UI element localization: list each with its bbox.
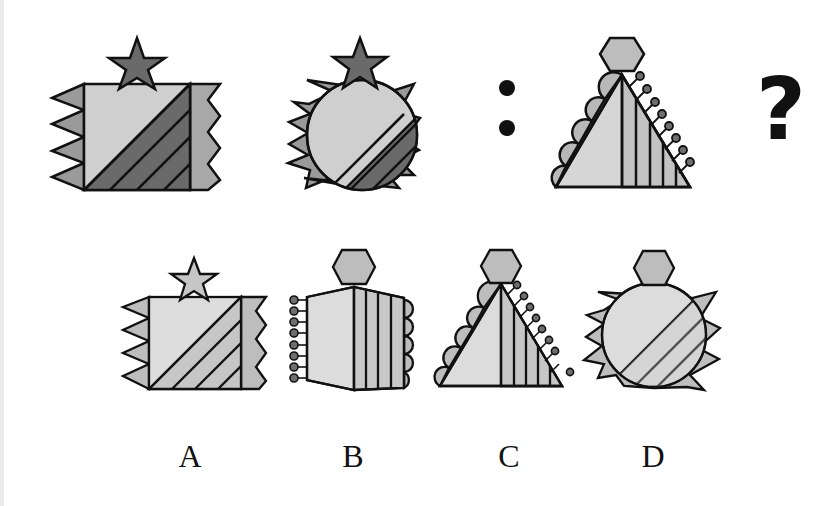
option-c-figure[interactable] bbox=[434, 250, 573, 386]
puzzle-figures bbox=[4, 0, 836, 506]
puzzle-canvas: ? A B C D bbox=[0, 0, 836, 506]
star-icon bbox=[171, 258, 217, 300]
hexagon-icon bbox=[333, 250, 375, 284]
sawtooth-left-icon bbox=[123, 297, 149, 389]
star-icon bbox=[109, 38, 165, 89]
top-figure-triangle-hexagon bbox=[552, 38, 694, 187]
hexagon-icon bbox=[600, 38, 644, 71]
option-b-figure[interactable] bbox=[290, 250, 413, 390]
lollipop-pins-left-icon bbox=[290, 296, 307, 382]
wavy-band-right-icon bbox=[190, 84, 220, 190]
top-figure-circle-sun-star bbox=[288, 38, 470, 214]
hexagon-icon bbox=[481, 250, 521, 283]
wavy-band-right-icon bbox=[241, 297, 266, 389]
scallops-right-icon bbox=[404, 300, 413, 388]
option-d-figure[interactable] bbox=[584, 251, 739, 405]
option-a-figure[interactable] bbox=[123, 258, 266, 389]
ratio-colon bbox=[499, 80, 515, 136]
sawtooth-left-icon bbox=[52, 84, 84, 190]
top-figure-square-star bbox=[52, 38, 220, 190]
option-c-label[interactable]: C bbox=[489, 438, 529, 475]
option-d-label[interactable]: D bbox=[633, 438, 673, 475]
hexagon-icon bbox=[634, 251, 674, 285]
option-a-label[interactable]: A bbox=[170, 438, 210, 475]
question-mark: ? bbox=[756, 66, 806, 152]
option-b-label[interactable]: B bbox=[333, 438, 373, 475]
